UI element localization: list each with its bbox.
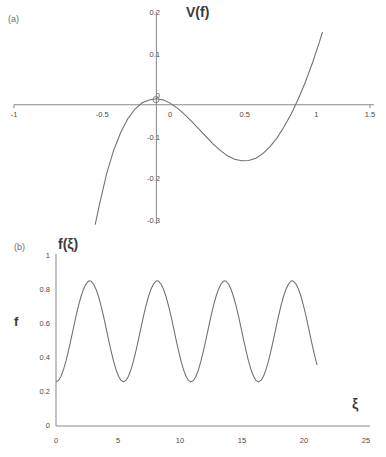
panel-a-curve-vf bbox=[95, 32, 322, 225]
panel-a: (a) V(f) 0.2 0.1 0 -0.1 -0.2 -0.3 -1 -0.… bbox=[0, 0, 386, 236]
figure-root: (a) V(f) 0.2 0.1 0 -0.1 -0.2 -0.3 -1 -0.… bbox=[0, 0, 386, 457]
panel-b-plot bbox=[0, 236, 386, 457]
panel-a-plot bbox=[0, 0, 386, 236]
panel-b: (b) f(ξ) f ξ 1 0.8 0.6 0.4 0.2 0 0 5 10 … bbox=[0, 236, 386, 457]
panel-b-curve-f-xi bbox=[56, 281, 317, 382]
